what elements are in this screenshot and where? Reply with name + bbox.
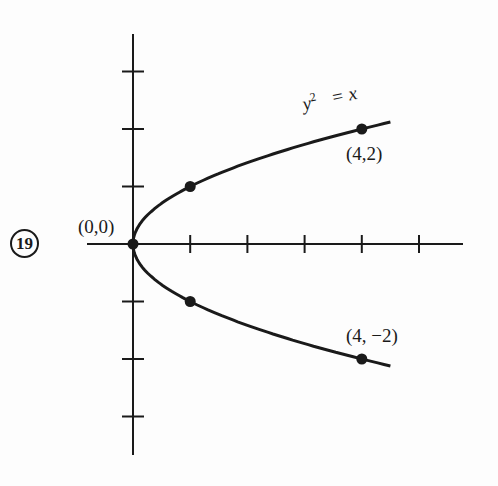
equation-exponent: 2 xyxy=(308,90,317,105)
data-point xyxy=(185,296,196,307)
data-point xyxy=(356,354,367,365)
point-label-4-2: (4,2) xyxy=(346,143,382,165)
upper-branch xyxy=(133,122,390,244)
point-label-4-neg2: (4, −2) xyxy=(346,325,398,347)
data-point xyxy=(128,239,139,250)
problem-number-badge: 19 xyxy=(10,229,39,258)
data-point xyxy=(185,181,196,192)
problem-number: 19 xyxy=(16,234,33,254)
graph-canvas xyxy=(0,0,498,486)
point-label-origin: (0,0) xyxy=(78,216,114,238)
equation-rhs: = x xyxy=(329,82,359,108)
lower-branch xyxy=(133,244,390,366)
axes xyxy=(87,34,463,455)
data-point xyxy=(356,124,367,135)
